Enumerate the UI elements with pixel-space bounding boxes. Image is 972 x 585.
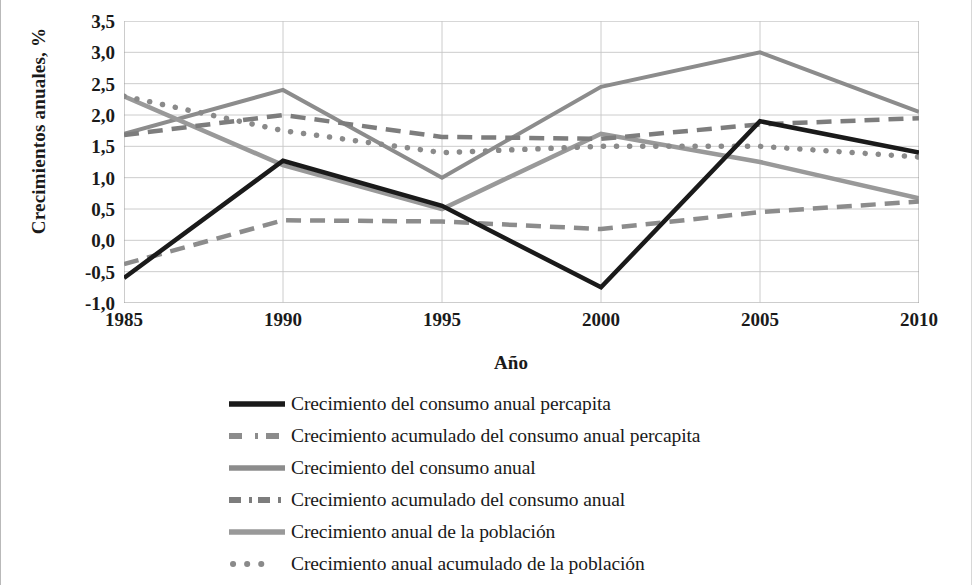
legend-item[interactable]: Crecimiento acumulado del consumo anual bbox=[229, 484, 929, 516]
legend-item[interactable]: Crecimiento anual acumulado de la poblac… bbox=[229, 548, 929, 580]
solid-grey-line-icon bbox=[229, 522, 285, 542]
y-tick-label: 1,0 bbox=[55, 168, 115, 187]
legend-item[interactable]: Crecimiento del consumo anual bbox=[229, 452, 929, 484]
legend-label: Crecimiento del consumo anual percapita bbox=[291, 394, 611, 414]
plot-area bbox=[124, 21, 919, 303]
x-axis-tick-labels: 198519901995200020052010 bbox=[1, 310, 972, 340]
legend-item[interactable]: Crecimiento acumulado del consumo anual … bbox=[229, 420, 929, 452]
chart-lines bbox=[124, 21, 919, 303]
y-tick-label: 3,0 bbox=[55, 43, 115, 62]
y-tick-label: 1,5 bbox=[55, 137, 115, 156]
x-tick-label: 1985 bbox=[79, 310, 169, 329]
x-tick-label: 2000 bbox=[556, 310, 646, 329]
y-tick-label: 2,5 bbox=[55, 74, 115, 93]
legend-label: Crecimiento anual de la población bbox=[291, 522, 555, 542]
legend-label: Crecimiento anual acumulado de la poblac… bbox=[291, 554, 645, 574]
y-tick-label: 3,5 bbox=[55, 12, 115, 31]
solid-black-line-icon bbox=[229, 394, 285, 414]
y-tick-label: -0,5 bbox=[55, 262, 115, 281]
legend-label: Crecimiento acumulado del consumo anual … bbox=[291, 426, 700, 446]
chart-figure: Crecimientos anuales, % 3,53,02,52,01,51… bbox=[0, 0, 972, 585]
dashed-grey-line-icon bbox=[229, 490, 285, 510]
dotted-grey-line-icon bbox=[229, 554, 285, 574]
chart-legend: Crecimiento del consumo anual percapitaC… bbox=[229, 388, 929, 580]
y-tick-label: 2,0 bbox=[55, 106, 115, 125]
x-axis-title: Año bbox=[1, 352, 972, 374]
solid-grey-line-icon bbox=[229, 458, 285, 478]
legend-item[interactable]: Crecimiento del consumo anual percapita bbox=[229, 388, 929, 420]
legend-label: Crecimiento del consumo anual bbox=[291, 458, 536, 478]
y-tick-label: 0,5 bbox=[55, 200, 115, 219]
series-line bbox=[124, 201, 919, 264]
y-tick-label: 0,0 bbox=[55, 231, 115, 250]
y-axis-tick-labels: 3,53,02,52,01,51,00,50,0-0,5-1,0 bbox=[47, 0, 115, 585]
legend-item[interactable]: Crecimiento anual de la población bbox=[229, 516, 929, 548]
x-tick-label: 1995 bbox=[397, 310, 487, 329]
x-tick-label: 1990 bbox=[238, 310, 328, 329]
legend-label: Crecimiento acumulado del consumo anual bbox=[291, 490, 625, 510]
dash-dot-grey-line-icon bbox=[229, 426, 285, 446]
x-tick-label: 2005 bbox=[715, 310, 805, 329]
x-tick-label: 2010 bbox=[874, 310, 964, 329]
